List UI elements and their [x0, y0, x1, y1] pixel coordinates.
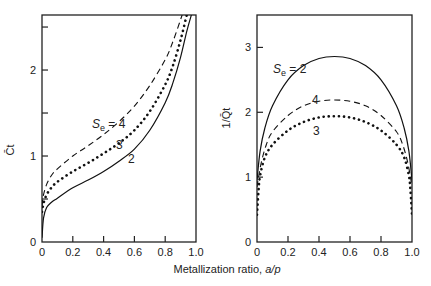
annotation-se-2: Se = 2 [273, 62, 307, 78]
x-tick-label: 1.0 [188, 246, 203, 258]
x-tick-label: 0 [39, 246, 45, 258]
y-axis-title: C̄t [4, 145, 16, 156]
x-tick-label: 1.0 [404, 246, 419, 258]
x-axis-title: Metallization ratio, a/p [173, 263, 280, 275]
x-tick-label: 0.8 [373, 246, 388, 258]
annotation-se-4: Se = 4 [92, 117, 126, 133]
y-axis-title: 1/Q̄t [220, 108, 232, 129]
annotation-se-3: 3 [116, 138, 123, 152]
x-tick-label: 0.4 [311, 246, 326, 258]
x-tick-label: 0.6 [342, 246, 357, 258]
x-tick-label: 0.2 [65, 246, 80, 258]
x-axis-title-var: a/p [265, 263, 280, 275]
y-tick-label: 1 [30, 150, 36, 162]
annotation-se-3: 3 [313, 124, 320, 138]
x-tick-label: 0 [254, 246, 260, 258]
y-tick-label: 2 [30, 64, 36, 76]
y-tick-label: 0 [30, 236, 36, 248]
panel-inverse-q: 00.20.40.60.81.001231/Q̄tSe = 243 [220, 15, 420, 258]
series-line-se-3 [42, 15, 187, 212]
panel-capacitance: 00.20.40.60.81.0012C̄tSe = 432 [4, 15, 204, 258]
series-line-se-4 [257, 100, 412, 187]
annotation-se-4: 4 [312, 93, 319, 107]
series-line-se-3 [257, 116, 412, 215]
x-axis-title-prefix: Metallization ratio, [173, 263, 265, 275]
y-tick-label: 2 [245, 106, 251, 118]
y-tick-label: 1 [245, 171, 251, 183]
x-tick-label: 0.8 [158, 246, 173, 258]
annotation-se-2: 2 [128, 152, 135, 166]
plot-frame [257, 15, 412, 242]
y-tick-label: 3 [245, 41, 251, 53]
chart-figure: 00.20.40.60.81.0012C̄tSe = 432 00.20.40.… [0, 0, 431, 286]
y-tick-label: 0 [245, 236, 251, 248]
x-tick-label: 0.2 [280, 246, 295, 258]
x-tick-label: 0.6 [127, 246, 142, 258]
x-tick-label: 0.4 [96, 246, 111, 258]
